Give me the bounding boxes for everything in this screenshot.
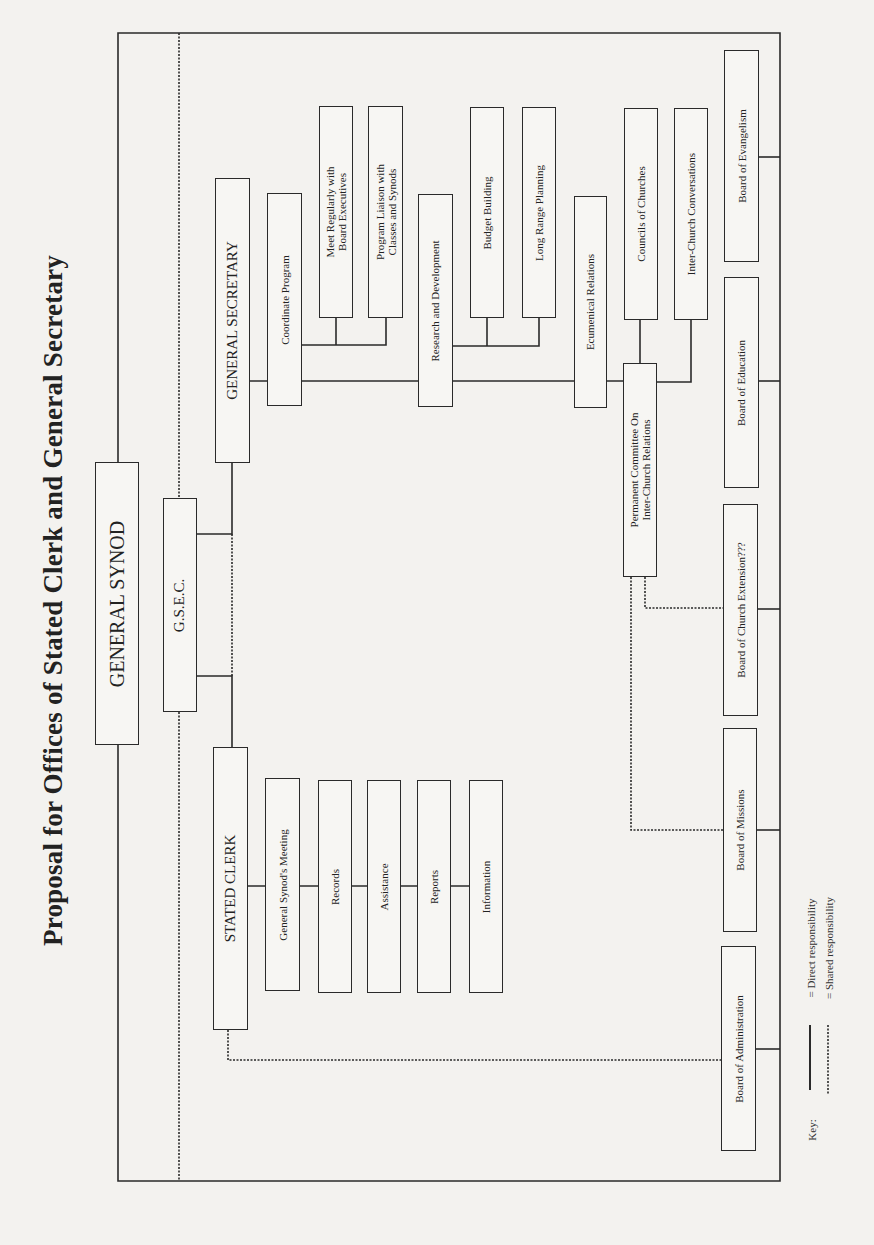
node-ecumenical-relations: Ecumenical Relations xyxy=(574,196,607,408)
node-board-missions: Board of Missions xyxy=(723,728,757,932)
node-program-liaison: Program Liaison with Classes and Synods xyxy=(368,106,403,318)
node-board-administration: Board of Administration xyxy=(721,946,756,1151)
node-label: Records xyxy=(329,868,341,904)
node-label: Information xyxy=(480,860,492,913)
node-coordinate-program: Coordinate Program xyxy=(267,193,302,406)
key-direct-text: = Direct responsibility xyxy=(805,898,817,997)
node-label: Budget Building xyxy=(481,176,493,249)
node-label: GENERAL SYNOD xyxy=(106,520,128,686)
gensec-gsec-line xyxy=(197,463,232,534)
node-assistance: Assistance xyxy=(367,780,401,993)
node-stated-clerk: STATED CLERK xyxy=(213,747,248,1030)
node-label: Inter-Church Conversations xyxy=(685,153,697,275)
node-label: Permanent Committee On Inter-Church Rela… xyxy=(628,413,652,528)
inter-church-line xyxy=(657,320,691,382)
node-label: Program Liaison with Classes and Synods xyxy=(374,164,398,260)
node-meet-regularly: Meet Regularly with Board Executives xyxy=(319,106,353,318)
gsec-stated-clerk-line xyxy=(197,676,232,747)
node-research-development: Research and Development xyxy=(418,194,453,407)
node-label: Ecumenical Relations xyxy=(585,254,597,350)
node-reports: Reports xyxy=(417,780,451,993)
node-label: Meet Regularly with Board Executives xyxy=(324,166,348,257)
node-label: Research and Development xyxy=(430,240,442,361)
node-board-education: Board of Education xyxy=(724,277,759,488)
node-long-range-planning: Long Range Planning xyxy=(522,107,556,318)
perm-churchext-dotted xyxy=(645,577,723,608)
node-board-church-extension: Board of Church Extension??? xyxy=(723,504,758,716)
node-label: Board of Church Extension??? xyxy=(735,542,747,677)
node-label: General Synod's Meeting xyxy=(277,829,289,940)
key-label-text: Key: xyxy=(806,1119,818,1140)
node-label: Board of Education xyxy=(736,339,748,425)
node-records: Records xyxy=(318,780,352,993)
node-councils-of-churches: Councils of Churches xyxy=(624,108,658,320)
node-permanent-committee: Permanent Committee On Inter-Church Rela… xyxy=(623,363,657,577)
node-label: Long Range Planning xyxy=(533,165,545,261)
research-children-line xyxy=(453,318,539,346)
coordinate-children-line xyxy=(302,318,386,345)
node-label: Coordinate Program xyxy=(279,255,291,345)
key-direct: = Direct responsibility xyxy=(801,870,821,1025)
node-general-synods-meeting: General Synod's Meeting xyxy=(265,778,300,991)
key-shared: = Shared responsibility xyxy=(819,870,839,1025)
node-label: GENERAL SECRETARY xyxy=(224,241,241,400)
node-budget-building: Budget Building xyxy=(470,107,504,318)
node-label: Board of Administration xyxy=(733,995,745,1103)
node-information: Information xyxy=(469,780,503,993)
node-label: Reports xyxy=(428,869,440,903)
node-board-evangelism: Board of Evangelism xyxy=(724,50,759,262)
node-label: Councils of Churches xyxy=(635,166,647,261)
node-label: Board of Missions xyxy=(734,789,746,870)
key-shared-text: = Shared responsibility xyxy=(823,896,835,998)
node-general-synod: GENERAL SYNOD xyxy=(95,462,139,745)
stated-clerk-admin-dotted xyxy=(228,1030,721,1060)
node-gsec: G.S.E.C. xyxy=(163,498,197,712)
org-chart-page: Proposal for Offices of Stated Clerk and… xyxy=(0,0,874,1245)
node-label: STATED CLERK xyxy=(222,835,239,943)
node-label: G.S.E.C. xyxy=(172,578,189,631)
node-label: Board of Evangelism xyxy=(736,109,748,202)
node-label: Assistance xyxy=(378,863,390,910)
perm-missions-dotted xyxy=(631,577,723,830)
key-label: Key: xyxy=(802,1110,822,1150)
node-general-secretary: GENERAL SECRETARY xyxy=(215,178,250,463)
node-inter-church-conversations: Inter-Church Conversations xyxy=(674,108,708,320)
